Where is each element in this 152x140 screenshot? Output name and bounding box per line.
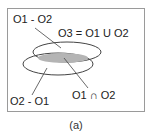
figure-caption: (a) xyxy=(0,119,152,131)
label-o1-minus-o2: O1 - O2 xyxy=(13,14,52,25)
intersection-region xyxy=(38,53,88,63)
leader-intersection xyxy=(64,58,88,88)
label-intersection: O1 ∩ O2 xyxy=(72,90,115,101)
label-o2-minus-o1: O2 - O1 xyxy=(10,96,49,107)
label-o3-union: O3 = O1 U O2 xyxy=(58,28,129,39)
